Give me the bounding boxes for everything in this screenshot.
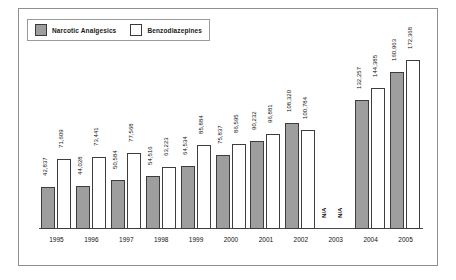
bar-value-label: 54,516: [147, 146, 153, 165]
x-axis-tick-label: 1999: [179, 236, 214, 243]
bar-rect: [146, 176, 160, 229]
bar-value-label: 90,232: [251, 111, 257, 130]
bar-group: 50,58477,5681997: [109, 47, 144, 229]
bar-value-label: N/A: [321, 207, 327, 218]
bar-group: 132,257144,3852004: [353, 47, 388, 229]
bar-rect: [111, 180, 125, 229]
bar-value-label: 86,595: [233, 115, 239, 134]
bar-rect: [390, 72, 404, 229]
bar-value-label: 108,320: [286, 90, 292, 112]
x-axis-tick-label: 2004: [353, 236, 388, 243]
x-axis-tick-label: 1998: [144, 236, 179, 243]
bar-value-label: 75,837: [217, 125, 223, 144]
bar-value-label: N/A: [337, 207, 343, 218]
bar-value-label: 77,568: [128, 123, 134, 142]
x-axis-tick-label: 1995: [39, 236, 74, 243]
bar-rect: [301, 130, 315, 229]
bar-value-label: 64,534: [182, 136, 188, 155]
bar-rect: [197, 145, 211, 229]
bar-rect: [355, 100, 369, 229]
bar-rect: [127, 153, 141, 229]
bar-rect: [57, 159, 71, 229]
x-axis-tick-label: 2000: [214, 236, 249, 243]
x-axis-tick-label: 2001: [248, 236, 283, 243]
bar-rect: [92, 157, 106, 229]
legend-item-benzodiazepines: Benzodiazepines: [130, 24, 202, 36]
bar-value-label: 63,223: [163, 137, 169, 156]
bar-group: 108,320100,7842002: [283, 47, 318, 229]
x-axis-tick-label: 2003: [318, 236, 353, 243]
bar-group: 90,23296,8812001: [248, 47, 283, 229]
bar-rect: [232, 144, 246, 229]
chart-legend: Narcotic Analgesics Benzodiazepines: [27, 19, 210, 41]
bar-rect: [216, 155, 230, 229]
bar-value-label: 44,028: [77, 156, 83, 175]
bar-rect: [406, 60, 420, 229]
legend-label-narcotic-analgesics: Narcotic Analgesics: [52, 27, 116, 34]
bar-group: 64,53485,8841999: [179, 47, 214, 229]
bar-value-label: 172,368: [407, 27, 413, 49]
x-axis-tick-label: 1997: [109, 236, 144, 243]
legend-item-narcotic-analgesics: Narcotic Analgesics: [35, 24, 116, 36]
bar-value-label: 96,881: [267, 105, 273, 124]
bar-rect: [371, 88, 385, 229]
bar-rect: [266, 134, 280, 229]
bar-value-label: 100,784: [302, 97, 308, 119]
x-axis-tick-label: 2005: [388, 236, 423, 243]
bar-rect: [76, 186, 90, 229]
bar-rect: [285, 123, 299, 229]
bar-value-label: 42,837: [42, 157, 48, 176]
x-axis-tick-label: 2002: [283, 236, 318, 243]
bar-value-label: 50,584: [112, 150, 118, 169]
legend-label-benzodiazepines: Benzodiazepines: [147, 27, 202, 34]
bar-group: 44,02873,4411996: [74, 47, 109, 229]
bar-group: 160,963172,3682005: [388, 47, 423, 229]
bar-group: N/AN/A2003: [318, 47, 353, 229]
legend-swatch-narcotic-analgesics: [35, 24, 47, 36]
bar-rect: [181, 166, 195, 229]
bar-rect: [162, 167, 176, 229]
bar-value-label: 73,441: [93, 127, 99, 146]
bar-group: 42,83771,6091995: [39, 47, 74, 229]
plot-area: 42,83771,609199544,02873,441199650,58477…: [39, 47, 423, 229]
bar-value-label: 144,385: [372, 55, 378, 77]
bar-group: 54,51663,2231998: [144, 47, 179, 229]
legend-swatch-benzodiazepines: [130, 24, 142, 36]
bar-rect: [41, 187, 55, 229]
bar-value-label: 132,257: [356, 67, 362, 89]
bar-value-label: 160,963: [391, 39, 397, 61]
chart-frame: Narcotic Analgesics Benzodiazepines 42,8…: [18, 8, 438, 266]
x-axis-tick-label: 1996: [74, 236, 109, 243]
bar-value-label: 71,609: [58, 129, 64, 148]
bar-rect: [250, 141, 264, 229]
bar-value-label: 85,884: [198, 115, 204, 134]
bar-group: 75,83786,5952000: [214, 47, 249, 229]
